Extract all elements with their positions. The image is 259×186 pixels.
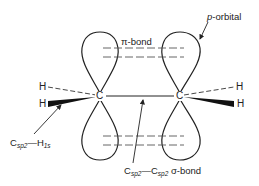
c-h-wedge-bond-right (184, 97, 234, 107)
p-orbital-lobe-left-bottom (82, 99, 118, 160)
p-orbital-lobe-right-top (162, 32, 200, 93)
pi-bond-overlap-bottom (103, 136, 184, 145)
c-h-bond-label: Csp2—H1s (10, 138, 51, 150)
hydrogen-atom-right-bottom: H (236, 99, 245, 109)
ethylene-orbital-diagram (0, 0, 259, 186)
p-orbital-label: p-orbital (207, 12, 241, 22)
arrow-p-orbital (200, 22, 208, 39)
p-orbital-lobe-left-top (82, 32, 118, 93)
sigma-bond-label: Csp2—Csp2 σ-bond (124, 166, 201, 178)
arrow-c-h-bond (34, 105, 61, 134)
p-orbital-lobe-right-bottom (162, 99, 200, 160)
hydrogen-atom-right-top: H (235, 82, 244, 92)
pi-bond-label: π-bond (120, 37, 153, 47)
c-h-dashed-bond-right (184, 87, 234, 95)
hydrogen-atom-left-bottom: H (38, 99, 47, 109)
carbon-atom-left: C (95, 91, 104, 101)
arrow-sigma-bond (133, 100, 143, 163)
c-h-dashed-bond-left (48, 87, 96, 95)
c-h-wedge-bond-left (48, 97, 96, 107)
pi-bond-overlap-top (103, 48, 184, 57)
carbon-atom-right: C (175, 91, 184, 101)
hydrogen-atom-left-top: H (38, 82, 47, 92)
